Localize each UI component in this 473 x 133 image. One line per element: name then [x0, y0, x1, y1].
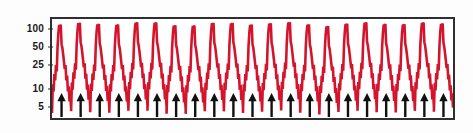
- arrow-head-icon: [115, 93, 123, 101]
- arrow-head-icon: [153, 93, 161, 101]
- arrow-head-icon: [191, 93, 199, 101]
- dose-arrow: [439, 93, 447, 117]
- arrow-head-icon: [439, 93, 447, 101]
- dose-arrow: [172, 93, 180, 117]
- arrow-head-icon: [57, 93, 65, 101]
- arrow-head-icon: [420, 93, 428, 101]
- plot-area: [50, 17, 455, 120]
- arrow-head-icon: [325, 93, 333, 101]
- dose-arrow: [153, 93, 161, 117]
- dose-arrow: [363, 93, 371, 117]
- y-axis-tick-label: 5: [38, 102, 44, 112]
- arrow-head-icon: [229, 93, 237, 101]
- dose-arrow: [420, 93, 428, 117]
- dose-arrow: [306, 93, 314, 117]
- y-axis-tick-mark: [48, 65, 53, 66]
- arrow-head-icon: [210, 93, 218, 101]
- arrow-head-icon: [401, 93, 409, 101]
- dose-arrow: [287, 93, 295, 117]
- arrow-head-icon: [267, 93, 275, 101]
- arrow-head-icon: [344, 93, 352, 101]
- y-axis-tick-mark: [48, 47, 53, 48]
- dose-arrow-markers: [52, 19, 453, 118]
- dose-arrow: [344, 93, 352, 117]
- dose-arrow: [267, 93, 275, 117]
- dose-arrow: [76, 93, 84, 117]
- arrow-head-icon: [306, 93, 314, 101]
- dose-arrow: [96, 93, 104, 117]
- dose-arrow: [210, 93, 218, 117]
- dose-arrow: [325, 93, 333, 117]
- y-axis-tick-label: 25: [32, 60, 44, 70]
- chart-figure: 1005025105: [0, 0, 473, 133]
- y-axis-tick-mark: [48, 106, 53, 107]
- dose-arrow: [115, 93, 123, 117]
- arrow-head-icon: [287, 93, 295, 101]
- dose-arrow: [134, 93, 142, 117]
- dose-arrow: [382, 93, 390, 117]
- arrow-head-icon: [382, 93, 390, 101]
- dose-arrow: [229, 93, 237, 117]
- arrow-head-icon: [96, 93, 104, 101]
- arrow-head-icon: [248, 93, 256, 101]
- arrow-head-icon: [76, 93, 84, 101]
- y-axis-tick-label: 50: [32, 42, 44, 52]
- y-axis-tick-label: 100: [27, 24, 44, 34]
- y-axis: 1005025105: [0, 0, 48, 133]
- y-axis-tick-mark: [48, 29, 53, 30]
- arrow-head-icon: [134, 93, 142, 101]
- dose-arrow: [191, 93, 199, 117]
- y-axis-tick-label: 10: [32, 84, 44, 94]
- y-axis-tick-mark: [48, 88, 53, 89]
- arrow-head-icon: [172, 93, 180, 101]
- dose-arrow: [57, 93, 65, 117]
- dose-arrow: [401, 93, 409, 117]
- dose-arrow: [248, 93, 256, 117]
- arrow-head-icon: [363, 93, 371, 101]
